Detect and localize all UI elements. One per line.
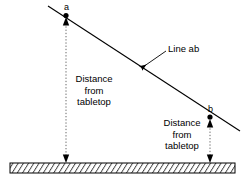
left-dimension-arrow-up — [63, 17, 69, 26]
right-dimension-arrow-down — [207, 155, 213, 164]
point-a-label: a — [64, 2, 69, 13]
right-dimension-line-2: from — [156, 129, 208, 141]
tabletop-fill — [10, 163, 235, 173]
right-dimension-line-1: Distance — [156, 117, 208, 129]
right-dimension-line-3: tabletop — [156, 140, 208, 152]
tabletop — [10, 163, 235, 173]
line-ab-callout-leader — [142, 51, 167, 68]
right-dimension-label: Distance from tabletop — [156, 117, 208, 152]
left-dimension-line-2: from — [68, 85, 120, 97]
left-dimension-label: Distance from tabletop — [68, 73, 120, 108]
diagram-canvas: a b Line ab Distance from tabletop Dista… — [0, 0, 245, 180]
point-b-marker — [207, 114, 212, 119]
left-dimension-arrow-down — [63, 155, 69, 164]
left-dimension-line-1: Distance — [68, 73, 120, 85]
point-b-label: b — [208, 104, 213, 115]
left-dimension-line-3: tabletop — [68, 96, 120, 108]
line-ab-callout-label: Line ab — [168, 43, 199, 54]
diagram-svg — [0, 0, 245, 180]
point-a-marker — [63, 13, 68, 18]
